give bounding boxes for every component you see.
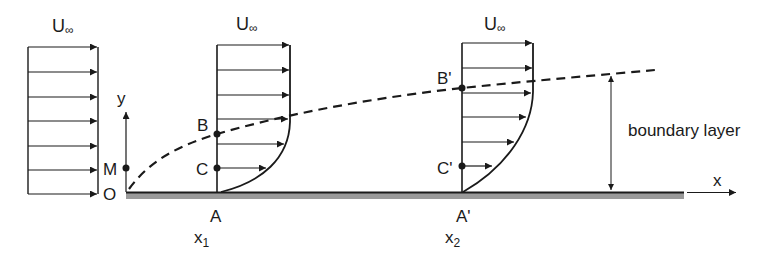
velocity-arrows xyxy=(28,47,97,194)
velocity-arrows xyxy=(462,43,532,166)
velocity-profile-x2: U∞ B' C' A' x2 xyxy=(437,14,533,250)
point-a-label: A xyxy=(210,207,222,226)
station-x1-label: x1 xyxy=(194,228,210,250)
point-b-label: B xyxy=(197,116,208,135)
point-c-prime-label: C' xyxy=(437,159,453,178)
freestream-label: U∞ xyxy=(52,16,74,37)
y-axis-label: y xyxy=(117,89,126,108)
y-axis: y M O xyxy=(103,89,130,204)
point-o-label: O xyxy=(103,185,116,204)
flat-plate xyxy=(126,193,684,200)
point-m-dot xyxy=(123,165,130,172)
freestream-label: U∞ xyxy=(484,14,506,35)
freestream-profile: U∞ xyxy=(28,16,98,194)
velocity-arrows xyxy=(217,45,289,168)
point-c-prime-dot xyxy=(459,163,466,170)
plate-shading xyxy=(126,193,684,199)
x-axis: x xyxy=(687,171,736,193)
point-m-label: M xyxy=(103,160,117,179)
boundary-layer-diagram: x y M O U∞ U∞ xyxy=(0,0,777,262)
velocity-profile-x1: U∞ B C A x1 xyxy=(194,14,290,250)
station-x2-label: x2 xyxy=(445,228,461,250)
x-axis-label: x xyxy=(713,171,722,190)
boundary-layer-label: boundary layer xyxy=(628,121,741,140)
point-c-label: C xyxy=(196,160,208,179)
point-a-prime-label: A' xyxy=(456,207,471,226)
point-b-prime-label: B' xyxy=(437,69,452,88)
freestream-label: U∞ xyxy=(236,14,258,35)
point-c-dot xyxy=(214,165,221,172)
